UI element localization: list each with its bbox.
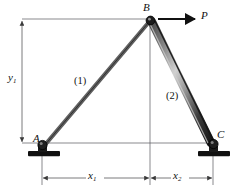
member-1 bbox=[44, 22, 149, 146]
member-2 bbox=[151, 21, 215, 143]
support-c bbox=[198, 139, 230, 156]
support-a-pin-highlight bbox=[40, 142, 43, 145]
dimension-label-x1: x1 bbox=[88, 170, 96, 182]
member-label-2: (2) bbox=[166, 91, 178, 102]
member-2-bar bbox=[152, 22, 211, 143]
truss-diagram bbox=[0, 0, 234, 191]
figure-canvas: B P A C (1) (2) y1 x1 x2 bbox=[0, 0, 234, 191]
dimension-label-x2: x2 bbox=[173, 170, 181, 182]
support-c-pin bbox=[209, 139, 218, 148]
joint-label-a: A bbox=[33, 133, 40, 144]
support-c-pin-highlight bbox=[211, 141, 214, 144]
joint-label-b: B bbox=[143, 2, 150, 13]
dimension-label-x2-subscript: 2 bbox=[178, 175, 181, 182]
load-label-p: P bbox=[201, 10, 208, 21]
member-1-outline bbox=[44, 22, 149, 146]
joint-b-pin bbox=[146, 16, 155, 25]
member-2-highlight bbox=[151, 25, 209, 143]
extension-lines bbox=[22, 19, 213, 185]
member-2-edge-dark bbox=[155, 21, 214, 142]
dimension-label-y1: y1 bbox=[8, 72, 16, 84]
dimension-label-y1-subscript: 1 bbox=[13, 77, 16, 84]
joint-b-pin-highlight bbox=[148, 18, 151, 21]
dimension-label-x1-subscript: 1 bbox=[93, 175, 96, 182]
joint-label-c: C bbox=[217, 129, 224, 140]
joint-b bbox=[146, 16, 155, 25]
member-label-1: (1) bbox=[74, 76, 86, 87]
